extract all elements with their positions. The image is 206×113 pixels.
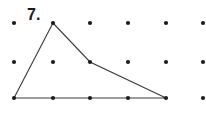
grid-dot <box>51 60 55 64</box>
dot-grid <box>12 21 205 100</box>
grid-dot <box>201 96 205 100</box>
grid-dot <box>12 60 16 64</box>
grid-dot <box>164 96 168 100</box>
grid-dot <box>126 21 130 25</box>
grid-dot <box>164 21 168 25</box>
grid-dot <box>201 21 205 25</box>
grid-dot <box>88 21 92 25</box>
grid-dot <box>126 96 130 100</box>
problem-number-label: 7. <box>27 7 40 23</box>
grid-dot <box>88 60 92 64</box>
grid-dot <box>201 60 205 64</box>
geoboard-figure: 7. <box>0 0 206 113</box>
grid-dot <box>12 96 16 100</box>
grid-dot <box>12 21 16 25</box>
grid-dot <box>164 60 168 64</box>
grid-dot <box>88 96 92 100</box>
grid-dot <box>126 60 130 64</box>
grid-dot <box>51 96 55 100</box>
grid-dot <box>51 21 55 25</box>
